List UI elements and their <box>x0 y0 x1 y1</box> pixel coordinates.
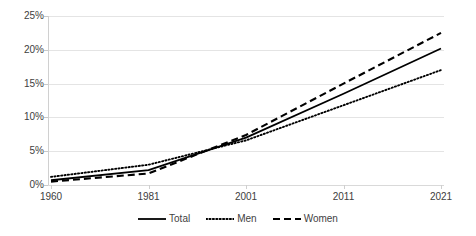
y-axis-tick-label: 25% <box>4 11 44 21</box>
legend-swatch-solid <box>138 214 166 224</box>
line-chart: 0%5%10%15%20%25% 19601981200120112021 To… <box>0 0 476 236</box>
x-axis-tick-label: 2021 <box>430 191 452 203</box>
legend-label: Women <box>304 213 338 225</box>
legend-label: Men <box>237 213 256 225</box>
x-axis-tick-label: 2001 <box>235 191 257 203</box>
x-axis-tickmark <box>344 185 345 189</box>
x-axis-tickmark <box>246 185 247 189</box>
x-axis-tickmark <box>441 185 442 189</box>
y-axis-tick-label: 0% <box>4 180 44 190</box>
y-axis-tick-label: 15% <box>4 79 44 89</box>
x-axis-tick-label: 1981 <box>137 191 159 203</box>
y-axis-tick-label: 20% <box>4 45 44 55</box>
legend-item-women[interactable]: Women <box>273 213 338 225</box>
legend-item-total[interactable]: Total <box>138 213 190 225</box>
y-axis-tick-label: 5% <box>4 146 44 156</box>
y-axis-tick-label: 10% <box>4 112 44 122</box>
x-axis-tickmark <box>51 185 52 189</box>
x-axis-tick-label: 2011 <box>333 191 355 203</box>
legend-swatch-dotted <box>206 214 234 224</box>
x-axis-tickmark <box>149 185 150 189</box>
x-axis-tick-label: 1960 <box>40 191 62 203</box>
legend-label: Total <box>169 213 190 225</box>
series-line-total <box>51 48 441 180</box>
series-line-women <box>51 33 441 182</box>
y-axis-labels: 0%5%10%15%20%25% <box>0 0 44 236</box>
series-line-men <box>51 70 441 177</box>
x-axis-labels: 19601981200120112021 <box>48 191 444 205</box>
series-paths <box>48 16 444 185</box>
legend-swatch-dashed <box>273 214 301 224</box>
chart-legend: TotalMenWomen <box>0 209 476 229</box>
plot-area <box>48 16 444 185</box>
legend-item-men[interactable]: Men <box>206 213 256 225</box>
